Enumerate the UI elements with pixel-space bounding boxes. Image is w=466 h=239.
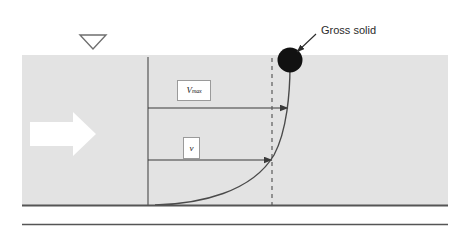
gross-solid-caption: Gross solid <box>321 24 376 36</box>
water-surface-level-icon <box>80 35 106 49</box>
velocity-max-subscript: max <box>192 88 201 94</box>
velocity-profile-figure: Vmax v Gross solid <box>0 0 466 239</box>
gross-solid-marker <box>278 48 303 73</box>
diagram-canvas <box>0 0 466 239</box>
velocity-local-label-box: v <box>183 137 200 159</box>
velocity-max-label-box: Vmax <box>177 80 211 101</box>
gross-solid-leader-line <box>297 34 316 52</box>
velocity-local-symbol: v <box>190 144 194 153</box>
